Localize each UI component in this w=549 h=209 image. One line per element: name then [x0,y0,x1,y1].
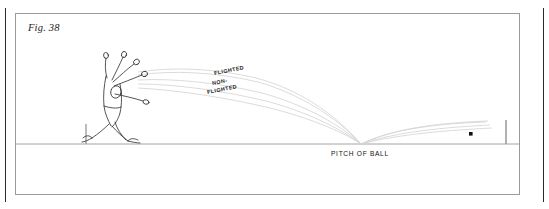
bowler-hand-position-2 [132,58,140,66]
bowler-front-foot [128,141,140,143]
page-edge-right-rule [543,8,544,202]
bowler-arm-followthrough [115,94,143,101]
bowler-hand-position-1 [121,51,128,58]
trajectory-non-flighted-2 [138,84,361,144]
bowler-front-leg [112,126,128,141]
bowler-waist [104,106,121,108]
bowler-front-shoe-top [128,139,138,141]
ball-marker [469,132,473,136]
bowler-arm-position-3 [114,75,142,86]
trajectory-flighted-2-rebound [361,121,488,144]
trajectory-flighted-2 [138,72,361,144]
bowler-arm-position-1 [112,57,123,80]
figure-frame: Fig. 38 [15,13,520,195]
bowler-figure [82,51,149,143]
trajectory-group [138,69,492,144]
figure-page: Fig. 38 [0,0,549,209]
cricket-delivery-diagram [16,14,519,194]
bowler-arm-raised [105,58,107,78]
bowler-front [112,84,122,127]
bowler-back-foot [82,138,92,142]
bowler-back [104,76,111,126]
trajectory-non-flighted-1 [138,80,361,144]
trajectory-non-flighted-3 [138,88,361,144]
pitch-of-ball-label: PITCH OF BALL [331,150,389,157]
bowler-back-shoe-top [83,136,92,138]
page-edge-left-rule [5,8,6,202]
bowler-hand-followthrough [143,99,150,105]
bowler-back-leg [92,124,109,138]
